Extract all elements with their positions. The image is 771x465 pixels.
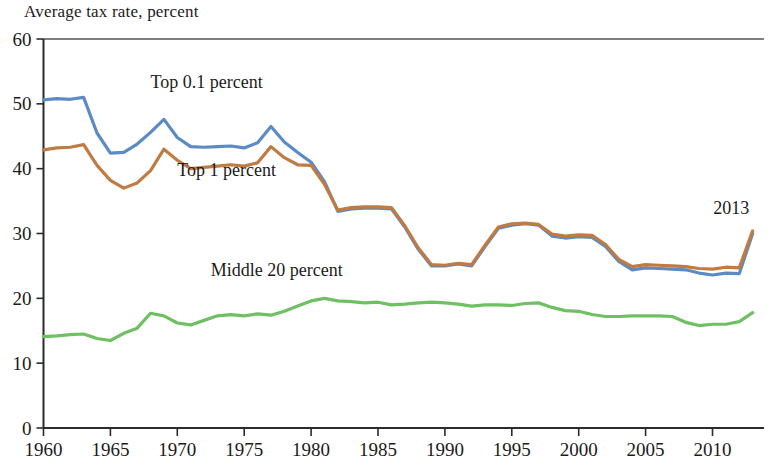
x-tick-label: 2000 [560,439,598,460]
x-tick-label: 2010 [694,439,732,460]
x-tick-label: 1965 [91,439,129,460]
data-line-3 [44,298,753,340]
y-tick-label: 30 [13,223,32,244]
series-label-3: Middle 20 percent [211,260,343,280]
data-line-1 [44,97,753,275]
series-label-1: Top 0.1 percent [151,72,263,92]
series-labels-group: Top 0.1 percentTop 1 percentMiddle 20 pe… [151,72,343,281]
x-tick-label: 1995 [493,439,531,460]
x-tick-label: 1960 [25,439,63,460]
x-tick-label: 1970 [158,439,196,460]
plot-frame [44,39,765,428]
line-chart-plot: 0102030405060 19601965197019751980198519… [0,0,771,465]
data-series-group [44,97,753,340]
series-label-2: Top 1 percent [177,160,276,180]
x-tick-label: 1985 [359,439,397,460]
x-tick-label: 1980 [292,439,330,460]
x-axis-ticks: 1960196519701975198019851990199520002005… [25,428,732,460]
x-tick-label: 1990 [426,439,464,460]
y-tick-label: 40 [13,158,32,179]
chart-container: Average tax rate, percent 0102030405060 … [0,0,771,465]
y-tick-label: 50 [13,93,32,114]
y-axis-ticks: 0102030405060 [13,29,44,439]
y-tick-label: 0 [22,418,32,439]
y-tick-label: 20 [13,288,32,309]
data-line-2 [44,145,753,269]
annotation-label: 2013 [713,198,749,218]
y-tick-label: 60 [13,29,32,50]
x-tick-label: 2005 [627,439,665,460]
y-tick-label: 10 [13,353,32,374]
x-tick-label: 1975 [225,439,263,460]
annotations-group: 2013 [713,198,749,218]
